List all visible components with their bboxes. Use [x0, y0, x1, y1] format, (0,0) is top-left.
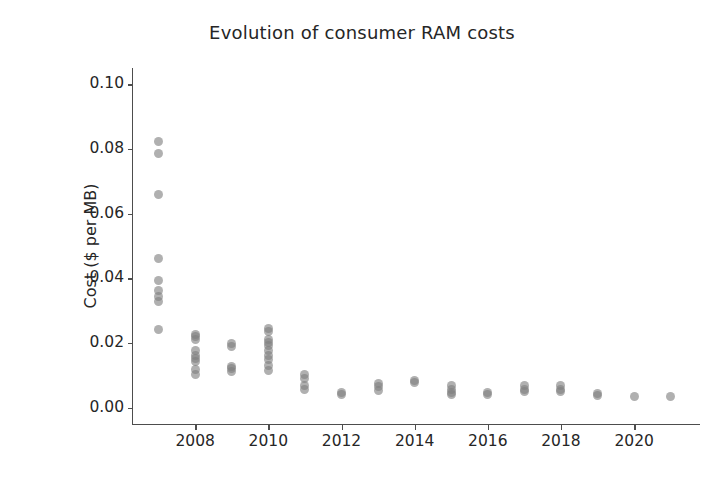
scatter-point [154, 137, 163, 146]
x-tick-label: 2010 [249, 434, 288, 450]
y-axis-label: Cost ($ per MB) [81, 184, 100, 309]
x-tick-mark [634, 424, 635, 430]
scatter-point [154, 254, 163, 263]
y-tick-mark [128, 408, 134, 409]
scatter-point [191, 335, 200, 344]
y-tick-label: 0.02 [89, 335, 124, 351]
scatter-point [154, 297, 163, 306]
x-tick-mark [415, 424, 416, 430]
scatter-point [227, 342, 236, 351]
scatter-point [483, 390, 492, 399]
scatter-point [337, 390, 346, 399]
scatter-point [630, 392, 639, 401]
chart-title: Evolution of consumer RAM costs [0, 22, 724, 43]
y-axis-label-container: Cost ($ per MB) [0, 68, 60, 424]
scatter-point [154, 276, 163, 285]
x-tick-mark [268, 424, 269, 430]
x-tick-mark [488, 424, 489, 430]
scatter-point [447, 390, 456, 399]
x-tick-label: 2014 [395, 434, 434, 450]
scatter-point [264, 366, 273, 375]
y-tick-mark [128, 214, 134, 215]
x-tick-label: 2016 [468, 434, 507, 450]
scatter-point [593, 391, 602, 400]
x-tick-label: 2018 [541, 434, 580, 450]
scatter-point [154, 190, 163, 199]
y-tick-label: 0.04 [89, 271, 124, 287]
x-tick-mark [561, 424, 562, 430]
y-tick-mark [128, 343, 134, 344]
y-tick-mark [128, 149, 134, 150]
scatter-point [666, 392, 675, 401]
scatter-point [410, 378, 419, 387]
x-tick-mark [342, 424, 343, 430]
scatter-point [556, 387, 565, 396]
y-tick-label: 0.08 [89, 141, 124, 157]
figure-canvas: Evolution of consumer RAM costs Cost ($ … [0, 0, 724, 494]
y-tick-mark [128, 84, 134, 85]
y-tick-mark [128, 278, 134, 279]
scatter-point [154, 325, 163, 334]
scatter-point [154, 149, 163, 158]
x-tick-label: 2008 [175, 434, 214, 450]
x-tick-label: 2012 [322, 434, 361, 450]
plot-area: 0.000.020.040.060.080.10 200820102012201… [133, 68, 700, 424]
scatter-point [191, 370, 200, 379]
scatter-point [520, 387, 529, 396]
x-tick-label: 2020 [614, 434, 653, 450]
scatter-point [300, 385, 309, 394]
scatter-point [227, 367, 236, 376]
y-tick-label: 0.10 [89, 76, 124, 92]
scatter-point [374, 386, 383, 395]
y-tick-label: 0.00 [89, 400, 124, 416]
y-tick-label: 0.06 [89, 206, 124, 222]
x-tick-mark [195, 424, 196, 430]
